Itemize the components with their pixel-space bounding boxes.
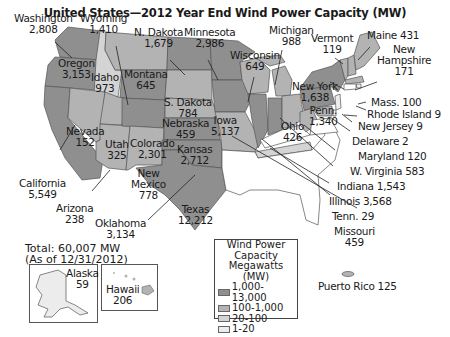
- label-wisconsin: Wisconsin 649: [230, 50, 280, 72]
- legend-item: 1-20: [215, 324, 297, 335]
- label-oklahoma: Oklahoma 3,134: [95, 218, 146, 240]
- legend-swatch: [218, 305, 230, 312]
- legend-title: Wind Power: [215, 240, 297, 251]
- state-connecticut: [344, 84, 356, 90]
- legend-title: Megawatts (MW): [215, 261, 297, 282]
- legend-label: 100-1,000: [232, 303, 283, 314]
- state-value: 5,137: [211, 126, 240, 137]
- state-name: Delaware 2: [352, 136, 408, 147]
- state-value: 119: [311, 44, 353, 55]
- label-ohio: Ohio 426: [281, 121, 304, 143]
- legend: Wind Power Capacity Megawatts (MW) 1,000…: [214, 239, 298, 319]
- label-minnesota: Minnesota 2,986: [184, 27, 236, 49]
- state-value: 2,712: [177, 155, 212, 166]
- label-newjersey: New Jersey 9: [358, 121, 423, 132]
- label-newmexico: New Mexico 778: [131, 168, 166, 201]
- state-value: 152: [66, 137, 104, 148]
- state-value: 238: [56, 214, 93, 225]
- state-value: 1,340: [309, 116, 338, 127]
- state-value: 1,410: [80, 24, 127, 35]
- label-newhampshire: New Hampshire 171: [377, 44, 431, 77]
- state-name: Rhode Island 9: [367, 109, 441, 120]
- label-newyork: New York 1,638: [292, 81, 338, 103]
- state-value: 3,134: [95, 229, 146, 240]
- legend-item: 1,000-13,000: [215, 282, 297, 303]
- label-michigan: Michigan 988: [269, 25, 314, 47]
- label-texas: Texas 12,212: [178, 204, 213, 226]
- legend-label: 1,000-13,000: [232, 282, 297, 303]
- state-name: Tenn. 29: [332, 211, 374, 222]
- state-value: 645: [124, 80, 168, 91]
- state-name: Maine 431: [367, 30, 419, 41]
- label-sdakota: S. Dakota 784: [164, 97, 212, 119]
- label-utah: Utah 325: [105, 139, 129, 161]
- state-value: 206: [106, 295, 139, 306]
- state-indiana: [268, 98, 282, 135]
- label-california: California 5,549: [19, 178, 66, 200]
- label-penn: Penn. 1,340: [309, 105, 338, 127]
- state-value: 2,808: [14, 24, 73, 35]
- label-ndakota: N. Dakota 1,679: [134, 27, 183, 49]
- label-arizona: Arizona 238: [56, 203, 93, 225]
- label-colorado: Colorado 2,301: [130, 138, 175, 160]
- label-mass: Mass. 100: [371, 97, 421, 108]
- state-mass: [345, 76, 364, 84]
- legend-swatch: [218, 289, 230, 296]
- label-puertorico: Puerto Rico 125: [318, 281, 397, 292]
- state-value: 12,212: [178, 215, 213, 226]
- state-value: 988: [269, 36, 314, 47]
- label-alaska: Alaska 59: [66, 268, 99, 290]
- label-tenn: Tenn. 29: [332, 211, 374, 222]
- state-value: 426: [281, 132, 304, 143]
- state-colorado: [122, 98, 165, 128]
- puertorico-shape: [342, 272, 354, 277]
- hawaii-inset: Hawaii 206: [101, 264, 158, 311]
- state-name: Mass. 100: [371, 97, 421, 108]
- state-name: Puerto Rico 125: [318, 281, 397, 292]
- legend-item: 20-100: [215, 314, 297, 325]
- label-oregon: Oregon 3,153: [58, 58, 95, 80]
- state-value: 973: [91, 83, 119, 94]
- legend-swatch: [218, 315, 230, 322]
- label-washington: Washington 2,808: [14, 13, 73, 35]
- label-indiana: Indiana 1,543: [337, 181, 405, 192]
- label-wyoming: Wyoming 1,410: [80, 13, 127, 35]
- label-montana: Montana 645: [124, 69, 168, 91]
- label-maryland: Maryland 120: [358, 151, 426, 162]
- state-value: 59: [66, 279, 99, 290]
- state-value: 325: [105, 150, 129, 161]
- state-value: 171: [377, 66, 431, 77]
- legend-swatch: [218, 326, 230, 333]
- total-capacity: Total: 60,007 MW (As of 12/31/2012): [25, 243, 128, 265]
- label-nevada: Nevada 152: [66, 126, 104, 148]
- state-value: 649: [230, 61, 280, 72]
- label-delaware: Delaware 2: [352, 136, 408, 147]
- legend-item: 100-1,000: [215, 303, 297, 314]
- state-name: W. Virginia 583: [350, 166, 424, 177]
- label-idaho: Idaho 973: [91, 72, 119, 94]
- state-name: Maryland 120: [358, 151, 426, 162]
- label-illinois: Illinois 3,568: [329, 196, 392, 207]
- state-value: 1,679: [134, 38, 183, 49]
- label-iowa: Iowa 5,137: [211, 115, 240, 137]
- state-value: 1,638: [292, 92, 338, 103]
- state-value: 2,986: [184, 38, 236, 49]
- state-rhodeisland: [356, 84, 361, 88]
- state-value: 3,153: [58, 69, 95, 80]
- label-missouri: Missouri 459: [334, 226, 375, 248]
- state-name: Illinois 3,568: [329, 196, 392, 207]
- label-rhodeisland: Rhode Island 9: [367, 109, 441, 120]
- label-hawaii: Hawaii 206: [106, 284, 139, 306]
- state-value: 5,549: [19, 189, 66, 200]
- alaska-inset: Alaska 59: [29, 264, 98, 323]
- label-vermont: Vermont 119: [311, 33, 353, 55]
- label-maine: Maine 431: [367, 30, 419, 41]
- state-value: 778: [131, 190, 166, 201]
- state-value: 2,301: [130, 149, 175, 160]
- state-name: Indiana 1,543: [337, 181, 405, 192]
- state-name: New Jersey 9: [358, 121, 423, 132]
- legend-label: 1-20: [232, 324, 255, 335]
- label-wvirginia: W. Virginia 583: [350, 166, 424, 177]
- label-kansas: Kansas 2,712: [177, 144, 212, 166]
- state-value: 459: [334, 237, 375, 248]
